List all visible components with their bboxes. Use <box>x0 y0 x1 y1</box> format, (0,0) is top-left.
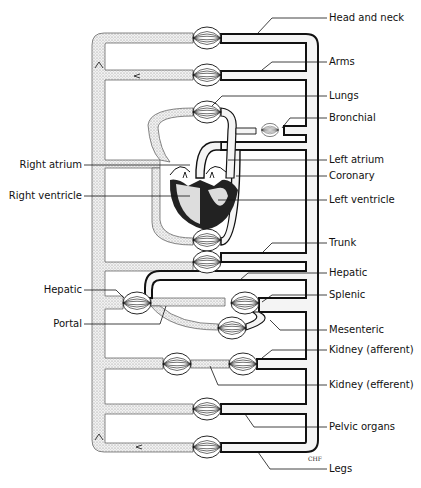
bed-legs <box>193 436 221 458</box>
label-legs: Legs <box>329 463 352 475</box>
bed-liver <box>123 292 151 314</box>
label-coronary: Coronary <box>329 170 375 182</box>
bed-kidney-afferent <box>229 353 257 375</box>
bed-trunk <box>193 251 221 273</box>
label-kidney-efferent: Kidney (efferent) <box>329 379 414 391</box>
label-right-atrium: Right atrium <box>19 159 82 171</box>
label-mesenteric: Mesenteric <box>329 324 384 336</box>
bed-head <box>193 27 221 49</box>
label-portal: Portal <box>53 318 82 330</box>
circulation-diagram <box>0 0 421 488</box>
label-trunk: Trunk <box>329 237 356 249</box>
label-bronchial: Bronchial <box>329 112 376 124</box>
label-kidney-afferent: Kidney (afferent) <box>329 344 414 356</box>
label-hepatic-right: Hepatic <box>329 267 367 279</box>
label-hepatic-left: Hepatic <box>44 284 82 296</box>
label-lungs: Lungs <box>329 90 359 102</box>
capillary-beds <box>123 27 278 458</box>
label-right-ventricle: Right ventricle <box>9 190 82 202</box>
bed-bronchial <box>262 123 279 136</box>
label-left-ventricle: Left ventricle <box>329 194 395 206</box>
bed-coronary <box>193 229 221 251</box>
bed-lungs <box>193 101 221 123</box>
bed-arms <box>193 64 221 86</box>
bed-mesentery <box>218 317 246 339</box>
label-pelvic-organs: Pelvic organs <box>329 421 395 433</box>
bed-spleen <box>231 292 259 314</box>
bed-pelvic <box>193 398 221 420</box>
artist-signature: CHF <box>308 455 322 462</box>
bed-kidney-efferent <box>163 353 191 375</box>
label-left-atrium: Left atrium <box>329 154 384 166</box>
label-head-and-neck: Head and neck <box>329 12 404 24</box>
label-arms: Arms <box>329 56 355 68</box>
label-splenic: Splenic <box>329 289 365 301</box>
